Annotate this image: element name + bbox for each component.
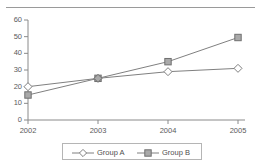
series-markers-group-b — [25, 34, 241, 98]
square-marker-icon — [137, 148, 159, 158]
series-markers-group-a — [24, 64, 242, 90]
line-chart: 60 50 40 30 20 10 0 2002 2003 2004 2005 — [0, 12, 261, 137]
data-point-group-b-2005 — [235, 34, 241, 40]
data-point-group-a-2004 — [164, 68, 172, 76]
series-line-group-a — [28, 68, 238, 86]
plot-canvas — [0, 12, 261, 137]
data-point-group-a-2005 — [234, 64, 242, 72]
legend-item-group-a[interactable]: Group A — [72, 147, 125, 158]
diamond-marker-icon — [72, 148, 94, 158]
x-axis-ticks — [28, 120, 238, 124]
data-point-group-a-2002 — [24, 83, 32, 91]
chart-legend: Group A Group B — [62, 143, 202, 160]
legend-item-group-b[interactable]: Group B — [137, 147, 190, 158]
legend-label-group-b: Group B — [162, 148, 190, 157]
series-line-group-b — [28, 38, 238, 96]
data-point-group-b-2004 — [165, 58, 171, 64]
data-point-group-b-2002 — [25, 92, 31, 98]
top-divider-rule — [6, 7, 255, 8]
legend-label-group-a: Group A — [97, 148, 125, 157]
y-axis-ticks — [24, 20, 28, 120]
